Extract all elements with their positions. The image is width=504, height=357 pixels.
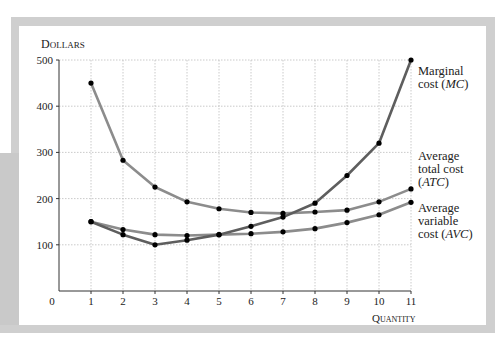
axes	[59, 60, 411, 291]
y-tick-label: 500	[37, 54, 54, 66]
data-point	[216, 232, 221, 237]
y-tick-label: 300	[37, 146, 54, 158]
avc-label-line1: Average	[418, 201, 460, 215]
data-point	[152, 232, 157, 237]
legend-atc: Average total cost (ATC)	[418, 149, 464, 189]
data-point	[88, 219, 93, 224]
x-tick-label: 4	[184, 295, 190, 307]
data-point	[312, 201, 317, 206]
y-tick-label: 400	[37, 100, 54, 112]
x-tick-label: 3	[152, 295, 158, 307]
data-point	[312, 209, 317, 214]
data-point	[344, 208, 349, 213]
legend-mc: Marginal cost (MC)	[418, 64, 468, 91]
data-point	[312, 226, 317, 231]
avc-label-line2: variable	[418, 214, 459, 228]
x-tick-label: 9	[344, 295, 350, 307]
data-point	[184, 238, 189, 243]
x-tick-label: 5	[216, 295, 222, 307]
x-tick-label: 1	[88, 295, 94, 307]
x-tick-label: 2	[120, 295, 126, 307]
x-axis-label: QUANTITY	[372, 312, 416, 324]
data-point	[280, 229, 285, 234]
y-axis-label: DOLLARS	[41, 37, 85, 51]
data-point	[152, 242, 157, 247]
x-tick-label: 7	[280, 295, 286, 307]
atc-label-line3: (ATC)	[418, 175, 449, 189]
data-point	[216, 206, 221, 211]
y-tick-label: 200	[37, 193, 54, 205]
atc-label-line2: total cost	[418, 162, 464, 176]
cost-curves-chart: 10020030040050001234567891011 DOLLARS QU…	[0, 0, 504, 357]
x-tick-label: 10	[374, 295, 386, 307]
data-point	[184, 199, 189, 204]
x-tick-label: 6	[248, 295, 254, 307]
data-point	[376, 212, 381, 217]
data-point	[120, 227, 125, 232]
data-point	[88, 81, 93, 86]
data-point	[248, 210, 253, 215]
data-point	[248, 224, 253, 229]
x-tick-label: 8	[312, 295, 318, 307]
legend-avc: Average variable cost (AVC)	[418, 201, 473, 241]
grid	[56, 60, 411, 294]
data-point	[120, 232, 125, 237]
data-point	[408, 200, 413, 205]
mc-label-line1: Marginal	[418, 64, 464, 78]
data-point	[344, 173, 349, 178]
data-point	[344, 220, 349, 225]
mc-label-line2: cost (MC)	[418, 77, 468, 91]
data-point	[152, 184, 157, 189]
atc-label-line1: Average	[418, 149, 460, 163]
x-tick-label: 11	[406, 295, 417, 307]
data-point	[184, 233, 189, 238]
data-point	[120, 158, 125, 163]
avc-label-line3: cost (AVC)	[418, 227, 473, 241]
data-point	[280, 214, 285, 219]
y-tick-label: 100	[37, 239, 54, 251]
data-point	[376, 141, 381, 146]
x-tick-label: 0	[49, 295, 55, 307]
data-point	[376, 199, 381, 204]
data-point	[248, 231, 253, 236]
data-point	[408, 186, 413, 191]
data-point	[408, 57, 413, 62]
